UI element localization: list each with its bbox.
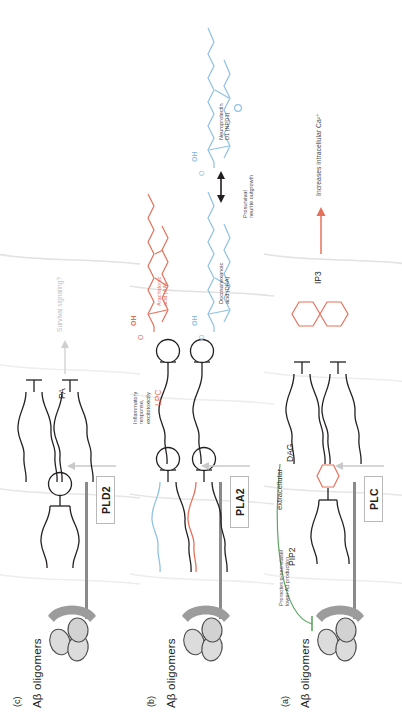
panel-b-dha-carbonyl: O xyxy=(198,335,206,340)
panel-a: (a) Aβ oligomers Promotes α-secretase/ l… xyxy=(268,0,402,724)
panel-b-arachidonic-acid-structure xyxy=(140,182,192,332)
panel-b-receptor xyxy=(178,594,234,664)
panel-c-outcome-label: Survival signaling? xyxy=(56,277,63,332)
abeta-oligomer-blobs xyxy=(47,617,91,663)
panel-a-ip3-hexagons xyxy=(290,292,350,332)
panel-b-outcome: Prosurvival neurite outgrowth xyxy=(242,175,255,218)
panel-a-substrate-label: PIP2 xyxy=(288,548,298,566)
panel-a-product-label: DAG xyxy=(286,444,296,462)
panel-c-letter: (c) xyxy=(12,697,22,708)
panel-b-aa-hydroxyl: OH xyxy=(130,316,138,327)
panel-a-outcome-label: Increases intracellular Ca²⁺ xyxy=(315,113,323,196)
panel-c: (c) Aβ oligomers xyxy=(0,0,134,724)
panel-a-receptor-label: Aβ oligomers xyxy=(299,638,312,708)
panel-b-npd1-carbonyl: O xyxy=(198,171,206,176)
panel-c-product-label: PA xyxy=(58,388,68,399)
panel-c-enzyme-box: PLD2 xyxy=(96,476,115,524)
panel-b-npd1-structure xyxy=(202,8,254,168)
panel-b-lpc-label: LPC xyxy=(154,389,164,406)
panel-b-aa-outcome: Inflammatory response, excitotoxicity xyxy=(132,392,151,424)
panel-a-enzyme-box: PLC xyxy=(364,476,383,522)
figure-canvas: (c) Aβ oligomers xyxy=(0,0,402,724)
abeta-oligomer-blobs xyxy=(181,617,225,663)
panel-b-enzyme-box: PLA2 xyxy=(230,476,249,528)
panel-a-second-messenger-label: IP3 xyxy=(314,271,324,284)
panel-b-receptor-label: Aβ oligomers xyxy=(165,638,178,708)
panel-b-dha-hydroxyl: OH xyxy=(191,316,199,327)
panel-b-dha-label: Docosahexanoic acid (DHA) xyxy=(218,263,231,304)
panel-a-receptor xyxy=(312,594,368,664)
panel-b-npd1-hydroxyl: OH xyxy=(191,152,199,163)
panel-a-extracellular-label: extracellular xyxy=(276,469,285,510)
panel-c-receptor-label: Aβ oligomers xyxy=(31,638,44,708)
panel-a-letter: (a) xyxy=(280,696,290,707)
panel-b-npd1-label: Neuroprotectin D1 (NPD1) xyxy=(218,103,231,140)
panel-b-conversion-arrow xyxy=(214,170,228,204)
panel-b-lpc-lipids xyxy=(158,336,224,466)
panel-c-phospholipids xyxy=(24,354,90,484)
panel-c-receptor xyxy=(44,594,100,664)
abeta-oligomer-blobs xyxy=(315,617,359,663)
panel-b: (b) Aβ oligomers xyxy=(134,0,268,724)
panel-b-aa-carbonyl: O xyxy=(137,335,145,340)
panel-b-letter: (b) xyxy=(146,696,156,707)
panel-a-outcome-arrow xyxy=(314,204,328,256)
panel-a-dag-lipids xyxy=(292,336,358,466)
panel-b-aa-label: Arachidonic acid (AA) xyxy=(156,277,169,306)
panel-c-outcome-arrow xyxy=(58,336,72,376)
